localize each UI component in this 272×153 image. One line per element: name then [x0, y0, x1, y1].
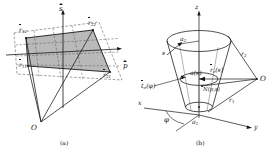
- origin-label-a: O: [31, 124, 37, 131]
- origin-label-b: O: [260, 75, 266, 82]
- vector-r12-label: r12: [19, 27, 27, 34]
- distance-r2-sub: 2: [244, 53, 246, 58]
- radius-a2-sub: 2: [184, 38, 186, 43]
- radius-a1-label: a1: [192, 119, 198, 126]
- caption-a: (a): [60, 140, 68, 146]
- arclength-s-label: s: [162, 50, 165, 56]
- distance-r1-sub: 1: [232, 99, 234, 104]
- radius-a1-sub: 1: [196, 121, 198, 126]
- radius-a2-label: a2: [180, 36, 186, 43]
- y-axis-line: [199, 115, 249, 127]
- z-axis-label: z: [195, 4, 198, 10]
- p-axis-arrowhead: [117, 47, 122, 51]
- tangent-vector-arg: (φ): [146, 82, 155, 89]
- point-N-label: N(p,s): [203, 87, 220, 92]
- tangent-vector-label: tσ(φ): [141, 83, 155, 90]
- angle-phi-label: φ: [164, 116, 169, 123]
- rc-arrowhead: [199, 77, 205, 81]
- base-center-point: [198, 106, 200, 108]
- vector-r11-label: r11: [19, 62, 27, 69]
- distance-r2-label: r2: [241, 51, 246, 58]
- vector-r22-base: r: [88, 19, 91, 26]
- vector-r12-sub: 12: [22, 29, 27, 34]
- panel-a: s p r12 r22 r11 r21 O (a): [0, 0, 136, 153]
- vector-r11-sub: 11: [22, 64, 27, 69]
- y-axis-label: y: [254, 124, 258, 130]
- vector-r21-label: r21: [103, 72, 111, 79]
- center-vector-label: rc(s): [210, 67, 223, 74]
- z-axis-arrowhead: [197, 11, 200, 16]
- vector-r21-line: [41, 72, 110, 122]
- right-apex-rays: [199, 36, 257, 112]
- tangent-vector-base: t: [141, 82, 144, 89]
- panel-a-graphics: [0, 0, 136, 153]
- x-axis-label: x: [138, 100, 142, 106]
- vector-r22-sub: 22: [91, 22, 96, 27]
- y-axis-arrowhead: [247, 125, 252, 129]
- vector-r11-base: r: [19, 61, 22, 68]
- frustum-generatrices: [180, 48, 218, 112]
- apex-O-point: [256, 78, 258, 80]
- vector-r22-label: r22: [88, 20, 96, 27]
- vector-r21-base: r: [103, 71, 106, 78]
- panel-b: z x y s a2 a(s) N(p,s) tσ(φ) rc(s) r2 r1…: [136, 0, 272, 153]
- vector-r21-sub: 21: [106, 74, 111, 79]
- center-vector-arg: (s): [215, 66, 223, 73]
- s-vector: [167, 44, 180, 55]
- panel-b-graphics: [136, 0, 272, 153]
- caption-b: (b): [196, 140, 205, 146]
- vector-r11-line: [28, 66, 41, 122]
- center-vector-base: r: [210, 66, 213, 73]
- distance-r1-label: r1: [229, 97, 234, 104]
- vector-r12-base: r: [19, 26, 22, 33]
- figure-root: s p r12 r22 r11 r21 O (a): [0, 0, 272, 153]
- radius-a-of-s-label: a(s): [190, 70, 202, 76]
